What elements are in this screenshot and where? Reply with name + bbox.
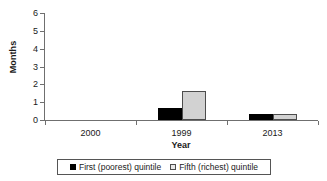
bar-chart: Months 0123456 200019992013 Year First (… [0,0,327,181]
bar [158,108,182,120]
y-tick-mark [40,120,44,121]
y-axis-title: Months [8,27,18,87]
bar [182,91,206,120]
x-axis-title: Year [44,140,318,150]
y-tick-mark [40,31,44,32]
y-tick-label: 3 [8,63,38,72]
plot-area [45,13,318,120]
y-tick-label: 4 [8,45,38,54]
legend-item: Fifth (richest) quintile [170,163,258,172]
x-tick-mark [136,121,137,125]
x-axis-line [44,120,318,121]
x-tick-mark [318,121,319,125]
y-tick-label: 1 [8,98,38,107]
y-tick-mark [40,13,44,14]
legend-swatch-icon [70,164,76,170]
legend-label: Fifth (richest) quintile [179,163,258,172]
bar [249,114,273,120]
x-tick-mark [227,121,228,125]
y-tick-mark [40,102,44,103]
y-tick-label: 2 [8,80,38,89]
y-tick-label: 0 [8,116,38,125]
legend-item: First (poorest) quintile [70,163,161,172]
y-tick-label: 6 [8,9,38,18]
x-tick-label: 2013 [238,128,308,138]
legend-swatch-icon [170,164,176,170]
bar [273,114,297,120]
legend-label: First (poorest) quintile [79,163,161,172]
x-tick-mark [45,121,46,125]
y-tick-mark [40,49,44,50]
y-tick-mark [40,67,44,68]
y-tick-label: 5 [8,27,38,36]
y-tick-mark [40,84,44,85]
x-tick-label: 2000 [56,128,126,138]
chart-legend: First (poorest) quintileFifth (richest) … [57,159,271,175]
x-tick-label: 1999 [147,128,217,138]
